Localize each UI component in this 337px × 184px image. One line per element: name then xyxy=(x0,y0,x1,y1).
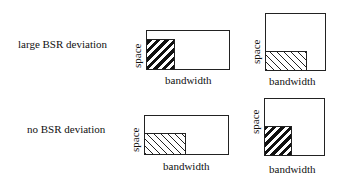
y-axis-label: space xyxy=(129,128,141,152)
allocated-region xyxy=(145,133,186,154)
x-axis-label: bandwidth xyxy=(269,163,315,175)
y-axis-label: space xyxy=(250,40,262,64)
resource-box xyxy=(146,30,230,70)
allocated-region xyxy=(265,126,292,155)
allocated-region xyxy=(266,51,307,70)
resource-box xyxy=(265,13,326,71)
y-axis-label: space xyxy=(131,44,143,68)
resource-box xyxy=(144,115,229,155)
row-label-no-bsr-deviation: no BSR deviation xyxy=(27,123,105,135)
allocated-region xyxy=(147,39,175,69)
x-axis-label: bandwidth xyxy=(163,160,209,172)
row-label-large-bsr-deviation: large BSR deviation xyxy=(18,38,107,50)
x-axis-label: bandwidth xyxy=(269,75,315,87)
y-axis-label: space xyxy=(249,110,261,134)
x-axis-label: bandwidth xyxy=(165,74,211,86)
resource-box xyxy=(264,98,325,156)
